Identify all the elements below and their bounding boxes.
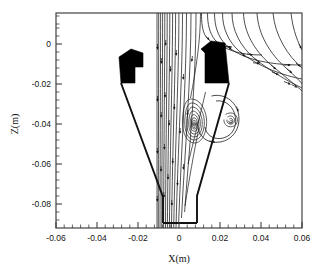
x-axis-title: X(m) [168, 253, 190, 265]
y-tick-label: -0.06 [32, 159, 52, 169]
x-tick-label: 0.02 [212, 233, 229, 243]
x-tick-label: -0.06 [46, 233, 66, 243]
y-tick-label: -0.08 [32, 199, 52, 209]
figure-panel: -0.06 -0.04 -0.02 0 0.02 0.04 0.06 0 -0.… [0, 0, 314, 276]
y-axis-title: Z(m) [9, 114, 21, 135]
y-tick-label: -0.02 [32, 79, 52, 89]
right-electrode [201, 41, 229, 83]
plot-svg: -0.06 -0.04 -0.02 0 0.02 0.04 0.06 0 -0.… [0, 0, 314, 276]
y-tick-label: 0 [46, 39, 51, 49]
x-tick-label: 0.04 [253, 233, 270, 243]
x-tick-label: -0.04 [87, 233, 107, 243]
x-tick-label: 0.06 [294, 233, 311, 243]
x-tick-label: -0.02 [128, 233, 148, 243]
y-tick-label: -0.04 [32, 119, 52, 129]
x-tick-label: 0 [177, 233, 182, 243]
